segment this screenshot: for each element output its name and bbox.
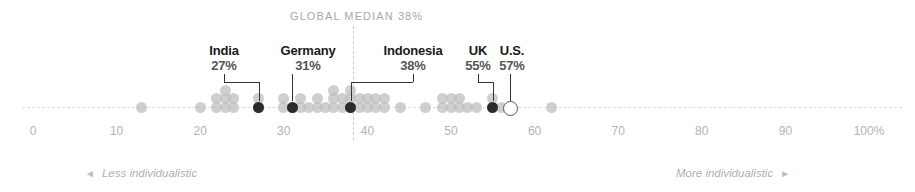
axis-tick-50: 50 [444, 124, 457, 138]
country-name-uk: UK [465, 44, 490, 59]
country-value-uk: 55% [465, 59, 490, 74]
axis-tick-30: 30 [277, 124, 290, 138]
highlight-marker-uk [487, 102, 498, 113]
axis-tick-0: 0 [30, 124, 37, 138]
country-label-germany: Germany31% [281, 44, 336, 73]
data-point [395, 102, 406, 113]
leader-segment [493, 82, 494, 101]
axis-tick-100: 100% [854, 124, 885, 138]
leader-segment [413, 74, 414, 82]
leader-segment [351, 82, 352, 101]
axis-tick-10: 10 [110, 124, 123, 138]
country-name-indonesia: Indonesia [384, 44, 443, 59]
highlight-marker-us [503, 101, 518, 116]
axis-tick-40: 40 [361, 124, 374, 138]
data-point [228, 93, 239, 104]
axis-tick-80: 80 [695, 124, 708, 138]
country-label-us: U.S.57% [499, 44, 524, 73]
country-value-germany: 31% [281, 59, 336, 74]
country-label-indonesia: Indonesia38% [384, 44, 443, 73]
global-median-title: GLOBAL MEDIAN 38% [290, 10, 423, 22]
axis-tick-60: 60 [528, 124, 541, 138]
dot-plot-chart: GLOBAL MEDIAN 38% 0102030405060708090100… [0, 0, 915, 192]
leader-segment [351, 82, 413, 83]
right-arrow-icon: ► [780, 168, 790, 179]
data-point [278, 93, 289, 104]
leader-segment [224, 74, 225, 82]
country-value-india: 27% [209, 59, 238, 74]
global-median-line [353, 26, 354, 140]
axis-tick-90: 90 [779, 124, 792, 138]
data-point [420, 102, 431, 113]
highlight-marker-india [253, 102, 264, 113]
country-name-us: U.S. [499, 44, 524, 59]
leader-segment [510, 74, 511, 101]
country-value-indonesia: 38% [384, 59, 443, 74]
highlight-marker-indonesia [345, 102, 356, 113]
leader-segment [224, 82, 259, 83]
leader-segment [478, 82, 493, 83]
data-point [546, 102, 557, 113]
leader-segment [259, 82, 260, 101]
data-point [379, 93, 390, 104]
data-point [195, 102, 206, 113]
less-individualistic-text: Less individualistic [102, 167, 197, 179]
axis-tick-70: 70 [612, 124, 625, 138]
data-point [471, 102, 482, 113]
axis-tick-20: 20 [194, 124, 207, 138]
country-label-india: India27% [209, 44, 238, 73]
country-name-india: India [209, 44, 238, 59]
country-name-germany: Germany [281, 44, 336, 59]
leader-segment [478, 74, 479, 82]
highlight-marker-germany [287, 102, 298, 113]
more-individualistic-text: More individualistic [676, 167, 773, 179]
country-label-uk: UK55% [465, 44, 490, 73]
more-individualistic-note: More individualistic► [676, 167, 790, 179]
data-point [136, 102, 147, 113]
left-arrow-icon: ◄ [85, 168, 95, 179]
leader-segment [292, 74, 293, 101]
less-individualistic-note: ◄Less individualistic [85, 167, 197, 179]
country-value-us: 57% [499, 59, 524, 74]
